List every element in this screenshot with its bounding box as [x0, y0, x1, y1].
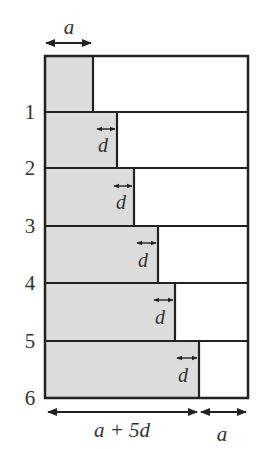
row-label-3: 3 [25, 214, 36, 238]
row-label-6: 6 [25, 386, 36, 410]
bottom-right-label: a [217, 422, 228, 446]
row-label-5: 5 [25, 329, 36, 353]
d-label: d [116, 191, 127, 213]
staircase-diagram: a d d d d [0, 0, 269, 449]
d-label: d [155, 306, 166, 328]
d-label: d [138, 249, 149, 271]
d-label: d [178, 364, 189, 386]
row-label-4: 4 [25, 271, 36, 295]
d-label: d [98, 134, 109, 156]
row-labels: 1 2 3 4 5 6 [25, 100, 36, 410]
bottom-left-label: a + 5d [94, 418, 151, 442]
row-label-2: 2 [25, 156, 36, 180]
top-label-a: a [64, 15, 75, 39]
row-label-1: 1 [25, 100, 36, 124]
